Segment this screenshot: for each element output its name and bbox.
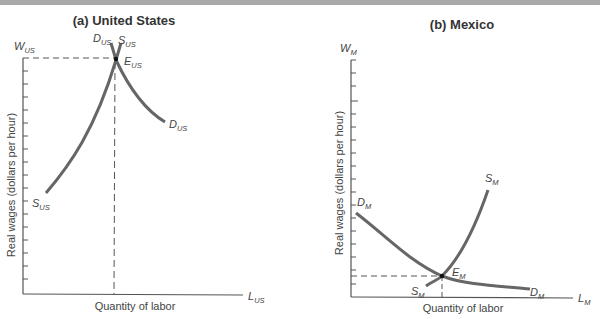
chart-title-mexico: (b) Mexico — [430, 17, 494, 32]
panel-mexico: (b) Mexico WM DM SM EM SM DM LM Quantity… — [333, 17, 591, 314]
l-mx-label: LM — [578, 292, 591, 307]
s-mx-top-label: SM — [485, 172, 499, 187]
d-us-bottom-label: DUS — [169, 118, 187, 133]
w-mx-label: WM — [340, 42, 357, 57]
y-axis-title-us: Real wages (dollars per hour) — [5, 113, 17, 257]
x-axis-us — [23, 294, 243, 295]
chart-title-us: (a) United States — [73, 13, 176, 28]
y-axis-title-mx: Real wages (dollars per hour) — [333, 111, 345, 255]
d-mx-top-label: DM — [357, 196, 372, 211]
d-mx-bottom-label: DM — [530, 286, 545, 301]
dashed-quantity-guide-us — [114, 62, 115, 294]
x-axis-title-mx: Quantity of labor — [423, 302, 504, 314]
supply-curve-us — [46, 43, 121, 193]
l-us-label: LUS — [248, 290, 265, 305]
y-ticks-mx — [351, 60, 358, 284]
x-axis-title-us: Quantity of labor — [95, 300, 176, 312]
labor-market-charts: (a) United States WUS DUS SUS EUS DUS SU… — [0, 0, 600, 319]
panel-united-states: (a) United States WUS DUS SUS EUS DUS SU… — [5, 13, 265, 312]
d-us-top-label: DUS — [93, 32, 111, 47]
s-us-bottom-label: SUS — [32, 197, 50, 212]
w-us-label: WUS — [14, 40, 35, 55]
y-ticks-us — [23, 71, 28, 279]
demand-curve-us — [111, 43, 165, 122]
e-us-label: EUS — [124, 55, 142, 70]
equilibrium-point-us — [114, 57, 118, 61]
equilibrium-point-mx — [440, 274, 444, 278]
